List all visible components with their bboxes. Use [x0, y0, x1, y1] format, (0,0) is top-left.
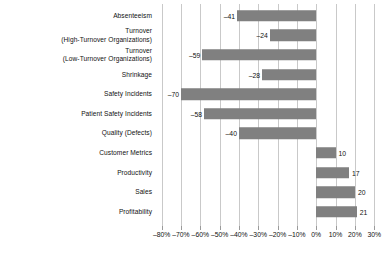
x-axis: –80%–70%–60%–50%–40%–30%–20%–10%0%10%20%…: [0, 226, 384, 258]
value-label: –41: [221, 12, 235, 19]
x-tick-label: 10%: [329, 231, 343, 238]
value-label: –24: [254, 32, 268, 39]
bar-rows: Absenteeism–41Turnover (High-Turnover Or…: [0, 6, 384, 222]
tick-mark--20: [278, 226, 279, 230]
x-tick-label: –10%: [288, 231, 305, 238]
bar: [181, 88, 316, 100]
category-label: Customer Metrics: [4, 149, 152, 157]
bar-row: Quality (Defects)–40: [0, 124, 384, 144]
value-label: 20: [358, 189, 366, 196]
x-tick-label: –40%: [230, 231, 247, 238]
bar: [316, 186, 355, 198]
tick-mark-20: [355, 226, 356, 230]
x-tick-label: –80%: [153, 231, 170, 238]
value-label: 21: [360, 208, 368, 215]
category-label: Sales: [4, 188, 152, 196]
value-label: –40: [223, 130, 237, 137]
tick-mark--50: [220, 226, 221, 230]
x-tick-label: –30%: [250, 231, 267, 238]
bar: [262, 69, 316, 81]
bar: [237, 10, 316, 22]
x-tick-label: –60%: [192, 231, 209, 238]
category-label: Turnover (High-Turnover Organizations): [4, 27, 152, 43]
diverging-bar-chart: Absenteeism–41Turnover (High-Turnover Or…: [0, 0, 384, 258]
tick-mark--10: [297, 226, 298, 230]
bar: [239, 128, 316, 140]
tick-mark-30: [374, 226, 375, 230]
category-label: Safety Incidents: [4, 90, 152, 98]
tick-mark--60: [200, 226, 201, 230]
category-label: Patient Safety Incidents: [4, 110, 152, 118]
tick-mark--30: [258, 226, 259, 230]
x-tick-label: –70%: [172, 231, 189, 238]
bar: [316, 147, 335, 159]
x-tick-label: –20%: [269, 231, 286, 238]
bar-row: Productivity17: [0, 163, 384, 183]
bar-row: Turnover (Low-Turnover Organizations)–59: [0, 45, 384, 65]
value-label: –28: [246, 71, 260, 78]
bar-row: Patient Safety Incidents–58: [0, 104, 384, 124]
tick-mark--80: [162, 226, 163, 230]
bar: [202, 49, 316, 61]
bar-row: Shrinkage–28: [0, 65, 384, 85]
tick-mark--40: [239, 226, 240, 230]
bar-row: Customer Metrics10: [0, 143, 384, 163]
x-tick-label: 20%: [348, 231, 362, 238]
bar: [270, 30, 316, 42]
value-label: –70: [165, 91, 179, 98]
category-label: Productivity: [4, 168, 152, 176]
category-label: Quality (Defects): [4, 129, 152, 137]
bar-row: Sales20: [0, 182, 384, 202]
value-label: 10: [339, 149, 347, 156]
plot-area: Absenteeism–41Turnover (High-Turnover Or…: [0, 0, 384, 258]
bar: [316, 167, 349, 179]
bar-row: Absenteeism–41: [0, 6, 384, 26]
x-tick-label: 0%: [311, 231, 321, 238]
tick-mark--70: [181, 226, 182, 230]
category-label: Profitability: [4, 208, 152, 216]
tick-mark-10: [336, 226, 337, 230]
x-tick-label: –50%: [211, 231, 228, 238]
category-label: Absenteeism: [4, 12, 152, 20]
value-label: –58: [188, 110, 202, 117]
bar: [204, 108, 316, 120]
value-label: 17: [352, 169, 360, 176]
tick-mark-0: [316, 226, 317, 230]
category-label: Shrinkage: [4, 70, 152, 78]
bar-row: Profitability21: [0, 202, 384, 222]
x-tick-label: 30%: [367, 231, 381, 238]
bar-row: Turnover (High-Turnover Organizations)–2…: [0, 26, 384, 46]
category-label: Turnover (Low-Turnover Organizations): [4, 47, 152, 63]
value-label: –59: [186, 51, 200, 58]
bar: [316, 206, 357, 218]
bar-row: Safety Incidents–70: [0, 84, 384, 104]
